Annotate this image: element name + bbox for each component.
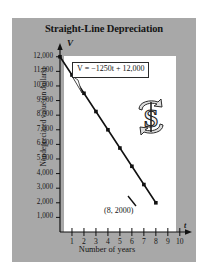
x-tick-label: 8 <box>150 237 162 246</box>
y-tick-label: 1,000 <box>21 212 53 220</box>
data-point-marker <box>82 91 86 95</box>
y-tick-label: 5,000 <box>21 154 53 162</box>
y-tick-label: 3,000 <box>21 183 53 191</box>
data-point-marker <box>94 110 98 114</box>
y-tick-label: 2,000 <box>21 198 53 206</box>
y-tick-label: 11,000 <box>21 66 53 74</box>
data-point-marker <box>58 55 62 59</box>
y-tick-label: 10,000 <box>21 81 53 89</box>
data-point-marker <box>118 146 122 150</box>
figure-container: Straight-Line Depreciation Nondepreciate… <box>0 0 209 278</box>
figure-panel: Straight-Line Depreciation Nondepreciate… <box>12 18 196 262</box>
point-annotation-leader <box>128 196 136 206</box>
data-point-marker <box>130 164 134 168</box>
y-tick-label: 8,000 <box>21 110 53 118</box>
x-tick-label: 9 <box>162 237 174 246</box>
x-tick-label: 4 <box>102 237 114 246</box>
y-tick-label: 6,000 <box>21 139 53 147</box>
x-tick-label: 2 <box>78 237 90 246</box>
point-annotation-label: (8, 2000) <box>104 206 133 215</box>
x-tick-label: 6 <box>126 237 138 246</box>
y-tick-label: 9,000 <box>21 96 53 104</box>
x-tick-label: 7 <box>138 237 150 246</box>
x-tick-label: 5 <box>114 237 126 246</box>
data-point-marker <box>106 128 110 132</box>
data-point-marker <box>142 183 146 187</box>
callout-pointer <box>72 76 82 93</box>
x-tick-label: 10 <box>174 237 186 246</box>
equation-callout: V = −1250t + 12,000 <box>72 62 149 78</box>
x-tick-label: 1 <box>66 237 78 246</box>
y-tick-label: 4,000 <box>21 169 53 177</box>
dollar-sign-recycle-icon: S <box>130 96 172 138</box>
x-tick-label: 3 <box>90 237 102 246</box>
y-tick-label: 12,000 <box>21 52 53 60</box>
data-point-marker <box>154 201 158 205</box>
y-tick-label: 7,000 <box>21 125 53 133</box>
